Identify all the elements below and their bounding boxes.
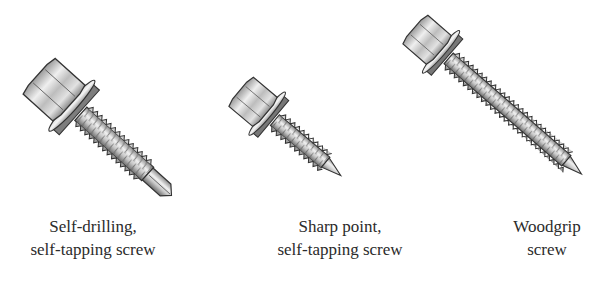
caption-line: Sharp point, (250, 215, 430, 238)
woodgrip-screw-illustration (396, 7, 600, 195)
self-drilling-screw-caption: Self-drilling, self-tapping screw (18, 215, 168, 261)
caption-line: self-tapping screw (250, 238, 430, 261)
caption-line: Self-drilling, (18, 215, 168, 238)
caption-line: Woodgrip (492, 215, 602, 238)
self-drilling-screw-illustration (15, 50, 194, 221)
sharp-point-screw-illustration (222, 69, 359, 197)
woodgrip-screw-caption: Woodgrip screw (492, 215, 602, 261)
caption-line: self-tapping screw (18, 238, 168, 261)
caption-line: screw (492, 238, 602, 261)
screw-types-figure: Self-drilling, self-tapping screw Sharp … (0, 0, 614, 288)
sharp-point-screw-caption: Sharp point, self-tapping screw (250, 215, 430, 261)
